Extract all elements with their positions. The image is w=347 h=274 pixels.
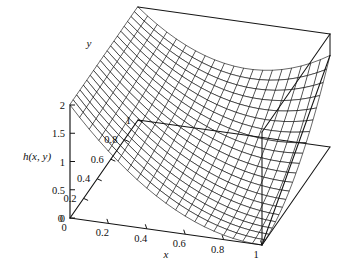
h-tick-label-4: 2 [60,100,65,111]
x-tick-label-1: 0.2 [96,227,109,238]
x-tick-label-3: 0.6 [173,238,186,249]
h-axis-title: h(x, y) [23,150,51,163]
surface-plot-figure: 00.20.40.60.8100.20.40.60.8100.511.52xyh… [0,0,347,274]
y-tick-label-3: 0.6 [91,154,104,165]
h-tick-label-1: 0.5 [52,185,65,196]
y-tick-label-5: 1 [126,115,131,126]
y-tick-label-4: 0.8 [104,134,117,145]
x-tick-label-5: 1 [253,249,258,260]
surface-mesh [70,7,330,245]
plot-canvas: 00.20.40.60.8100.20.40.60.8100.511.52xyh… [0,0,347,274]
x-tick-label-2: 0.4 [134,233,148,244]
y-tick-label-1: 0.2 [63,193,76,204]
x-tick-label-4: 0.8 [211,244,224,255]
y-tick-label-2: 0.4 [77,173,91,184]
h-tick-label-2: 1 [60,157,65,168]
h-tick-label-3: 1.5 [52,128,65,139]
x-axis-title: x [163,248,169,260]
y-axis-title: y [86,37,92,49]
h-tick-label-0: 0 [60,213,65,224]
